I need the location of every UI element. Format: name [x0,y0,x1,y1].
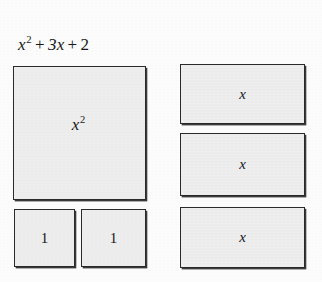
title-operator-plus-1: + [32,35,48,54]
algebra-tiles-figure: x2+3x+2 x2 1 1 x x x [0,0,322,282]
polynomial-expression-title: x2+3x+2 [18,36,89,53]
tile-unit-2-label: 1 [110,231,118,246]
tile-unit-1-label: 1 [41,231,49,246]
tile-x-squared[interactable]: x2 [13,66,146,200]
tile-x-squared-exponent: 2 [80,114,85,125]
tile-unit-2[interactable]: 1 [81,209,146,267]
title-term-linear: 3x [48,35,65,54]
tile-x-1[interactable]: x [180,64,305,124]
tile-x-2[interactable]: x [180,133,305,196]
title-operator-plus-2: + [65,35,81,54]
tile-x-1-label: x [239,87,246,102]
title-term-quadratic: x2 [18,35,32,54]
title-term-constant: 2 [80,35,89,54]
tile-x-squared-label: x2 [72,116,85,133]
tile-unit-1[interactable]: 1 [14,209,75,267]
tile-x-2-label: x [239,157,246,172]
tile-x-3[interactable]: x [180,207,305,268]
tile-x-3-label: x [239,230,246,245]
